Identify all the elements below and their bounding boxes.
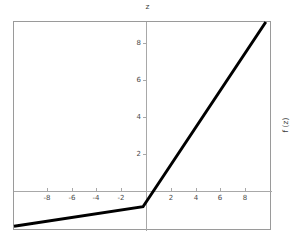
series-line <box>14 22 266 226</box>
y-axis-label: f (z) <box>281 118 290 133</box>
chart-title: z <box>0 2 295 11</box>
plot-area: -8 -6 -4 -2 2 4 6 8 2 4 6 8 <box>13 21 271 230</box>
chart-figure: z f (z) -8 -6 -4 -2 2 4 6 8 2 4 6 8 <box>0 0 295 250</box>
leaky-relu-curve <box>14 22 272 231</box>
